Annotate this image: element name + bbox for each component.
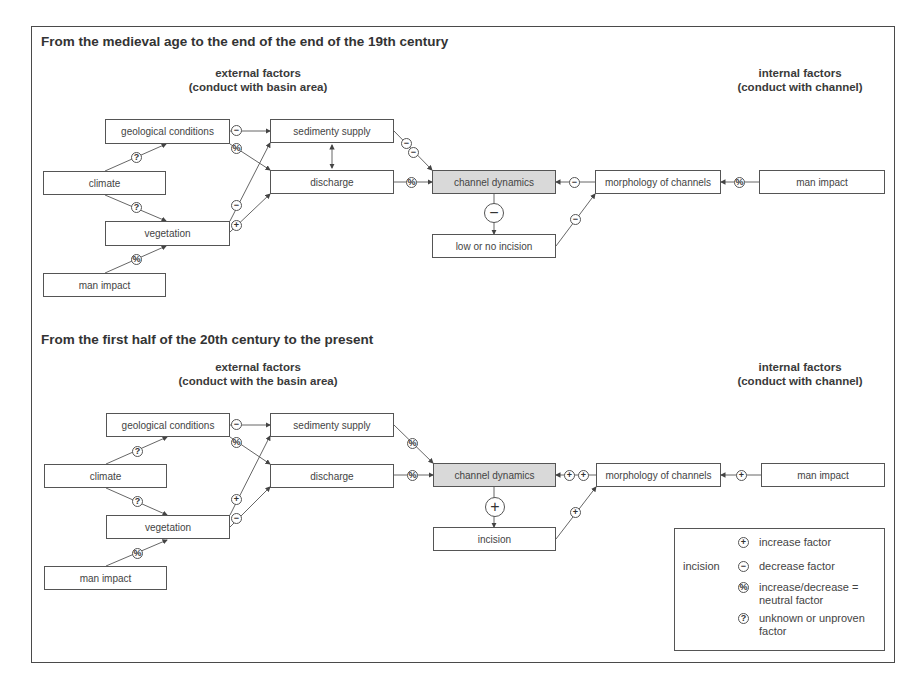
plus-icon: + [578,470,589,481]
minus-icon: − [231,513,242,524]
internal-heading-text: internal factors [720,360,880,374]
legend-text: increase factor [759,536,884,549]
section-title-historical: From the medieval age to the end of the … [41,34,448,49]
box-morphology-of-channels: morphology of channels [595,170,721,194]
legend: incision +increase factor −decrease fact… [674,528,885,651]
neutral-icon: % [738,582,749,593]
legend-item-neutral: %increase/decrease = neutral factor [738,581,884,607]
unknown-icon: ? [132,446,143,457]
minus-icon: − [569,177,580,188]
minus-icon: − [738,561,749,572]
plus-icon: + [564,470,575,481]
minus-icon: − [231,125,242,136]
neutral-icon: % [132,548,143,559]
legend-item-unknown: ?unknown or unproven factor [738,612,884,638]
external-heading-text: external factors [163,360,353,374]
minus-icon: − [231,419,242,430]
plus-icon: + [231,220,242,231]
box-vegetation: vegetation [105,221,230,246]
legend-text: unknown or unproven factor [759,612,884,638]
legend-item-increase: +increase factor [738,536,884,549]
internal-heading-text: internal factors [720,66,880,80]
box-sedimenty-supply: sedimenty supply [270,413,394,437]
box-man-impact-external: man impact [44,566,167,590]
box-climate: climate [44,464,167,488]
neutral-icon: % [407,438,418,449]
neutral-icon: % [231,437,242,448]
plus-icon: + [485,497,505,517]
unknown-icon: ? [738,613,749,624]
legend-label: incision [683,560,720,572]
internal-subheading-text: (conduct with channel) [720,374,880,388]
box-vegetation: vegetation [106,515,230,539]
neutral-icon: % [231,143,242,154]
box-channel-dynamics: channel dynamics [433,463,556,487]
minus-icon: − [408,147,419,158]
external-factors-heading: external factors (conduct with basin are… [178,66,338,94]
box-discharge: discharge [270,464,394,488]
plus-icon: + [231,494,242,505]
box-man-impact-external: man impact [43,273,166,297]
unknown-icon: ? [131,202,142,213]
internal-factors-heading: internal factors (conduct with channel) [720,360,880,388]
box-geological-conditions: geological conditions [105,119,230,144]
box-man-impact-internal: man impact [759,170,885,194]
minus-icon: − [570,214,581,225]
section-title-modern: From the first half of the 20th century … [41,332,373,347]
box-climate: climate [43,171,166,195]
neutral-icon: % [131,254,142,265]
box-man-impact-internal: man impact [761,463,885,487]
external-factors-heading: external factors (conduct with the basin… [163,360,353,388]
box-low-or-no-incision: low or no incision [432,234,556,258]
legend-text: decrease factor [759,560,884,573]
plus-icon: + [570,507,581,518]
minus-icon: − [231,200,242,211]
unknown-icon: ? [132,496,143,507]
internal-subheading-text: (conduct with channel) [720,80,880,94]
box-discharge: discharge [270,170,394,194]
box-channel-dynamics: channel dynamics [432,170,556,194]
neutral-icon: % [406,177,417,188]
external-subheading-text: (conduct with basin area) [178,80,338,94]
box-geological-conditions: geological conditions [106,413,230,437]
unknown-icon: ? [131,152,142,163]
legend-text: increase/decrease = neutral factor [759,581,884,607]
plus-icon: + [738,537,749,548]
box-morphology-of-channels: morphology of channels [596,463,721,487]
external-heading-text: external factors [178,66,338,80]
external-subheading-text: (conduct with the basin area) [163,374,353,388]
neutral-icon: % [407,470,418,481]
box-incision: incision [433,527,556,551]
box-sedimenty-supply: sedimenty supply [270,119,394,143]
legend-item-decrease: −decrease factor [738,560,884,573]
internal-factors-heading: internal factors (conduct with channel) [720,66,880,94]
neutral-icon: % [734,177,745,188]
plus-icon: + [736,470,747,481]
minus-icon: − [484,203,504,223]
